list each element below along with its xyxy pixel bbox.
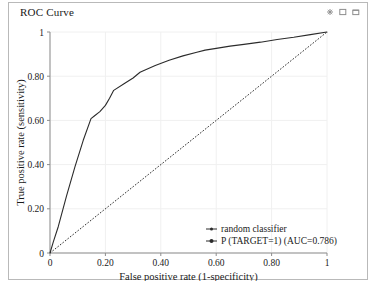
x-tick-label: 0.40: [152, 258, 169, 268]
y-tick-label: 0.80: [27, 72, 44, 82]
y-tick-label: 0.20: [27, 204, 44, 214]
x-tick-label: 0.80: [263, 258, 280, 268]
legend-label-random-classifier: random classifier: [221, 224, 288, 234]
y-tick-label: 0: [39, 249, 44, 259]
y-axis-title: True positive rate (sensitivity): [15, 79, 27, 206]
x-axis-ticks: 00.200.400.600.801: [48, 253, 330, 268]
legend-label-target-curve: P (TARGET=1) (AUC=0.786): [221, 236, 337, 247]
roc-plot-container: 00.200.400.600.801 00.200.400.600.801 Fa…: [9, 3, 369, 281]
random-classifier-line: [50, 32, 327, 253]
y-axis-ticks: 00.200.400.600.801: [27, 28, 50, 259]
y-tick-label: 0.40: [27, 160, 44, 170]
roc-chart: 00.200.400.600.801 00.200.400.600.801 Fa…: [9, 3, 369, 281]
x-axis-title: False positive rate (1-specificity): [119, 271, 258, 281]
legend-item-target-curve[interactable]: P (TARGET=1) (AUC=0.786): [206, 236, 337, 247]
legend-item-random-classifier[interactable]: random classifier: [206, 224, 288, 234]
y-tick-label: 1: [39, 28, 44, 38]
chart-legend: random classifier P (TARGET=1) (AUC=0.78…: [206, 224, 337, 247]
x-tick-label: 1: [325, 258, 330, 268]
chart-card: ROC Curve 00.200.400.600: [8, 2, 368, 280]
x-tick-label: 0: [48, 258, 53, 268]
y-tick-label: 0.60: [27, 116, 44, 126]
x-tick-label: 0.60: [208, 258, 225, 268]
x-tick-label: 0.20: [97, 258, 114, 268]
